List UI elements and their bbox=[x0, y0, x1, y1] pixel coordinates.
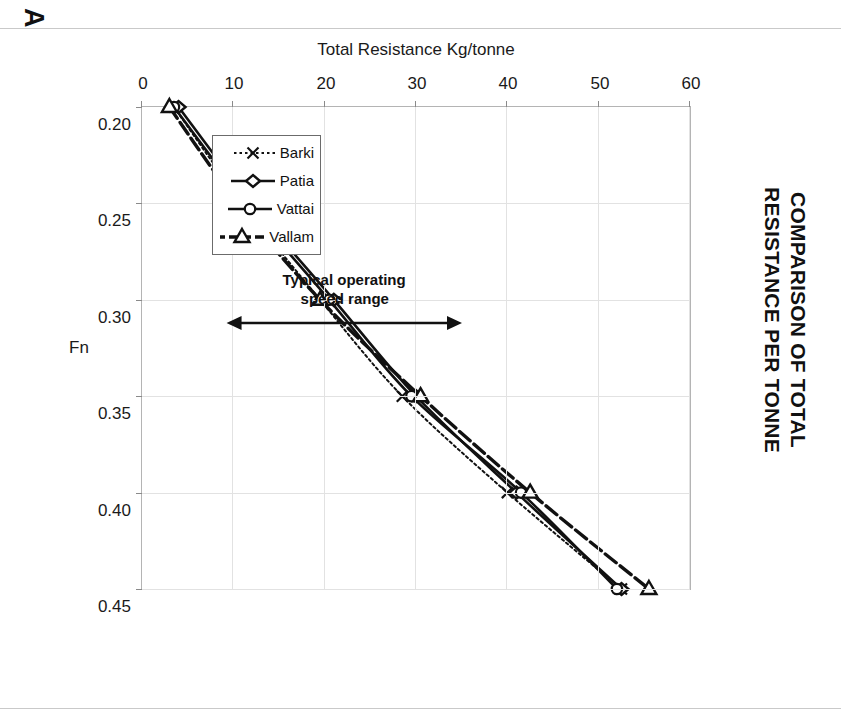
operating-range-annotation: Typical operating speed range bbox=[225, 271, 462, 335]
x-tick-label: 0.30 bbox=[98, 308, 131, 328]
x-tick-label: 0.45 bbox=[98, 597, 131, 617]
y-tick bbox=[324, 101, 325, 107]
y-tick bbox=[689, 101, 690, 107]
chart-title-line2: RESISTANCE PER TONNE bbox=[760, 70, 786, 570]
x-gridline bbox=[142, 396, 690, 397]
legend: BarkiPatiaVattaiVallam bbox=[212, 135, 321, 255]
y-gridline bbox=[689, 107, 690, 589]
chart-stage: A COMPARISON OF TOTAL RESISTANCE PER TON… bbox=[0, 0, 841, 727]
y-tick-label: 30 bbox=[408, 74, 427, 94]
x-tick bbox=[136, 589, 142, 590]
y-tick-label: 40 bbox=[499, 74, 518, 94]
panel-letter: A bbox=[18, 8, 49, 28]
legend-item-vallam[interactable]: Vallam bbox=[219, 228, 314, 246]
legend-label: Vallam bbox=[269, 229, 314, 244]
y-gridline bbox=[415, 107, 416, 589]
legend-label: Patia bbox=[280, 173, 314, 188]
x-axis-title: Fn bbox=[69, 338, 89, 358]
y-tick bbox=[415, 101, 416, 107]
x-tick-label: 0.20 bbox=[98, 115, 131, 135]
circle-marker bbox=[245, 204, 255, 214]
y-tick bbox=[232, 101, 233, 107]
legend-label: Vattai bbox=[277, 201, 314, 216]
legend-item-patia[interactable]: Patia bbox=[219, 172, 314, 190]
y-tick-label: 20 bbox=[316, 74, 335, 94]
chart-title: COMPARISON OF TOTAL RESISTANCE PER TONNE bbox=[760, 70, 811, 570]
x-tick-label: 0.40 bbox=[98, 501, 131, 521]
chart-title-line1: COMPARISON OF TOTAL bbox=[785, 70, 811, 570]
x-tick bbox=[136, 396, 142, 397]
y-tick-label: 60 bbox=[682, 74, 701, 94]
y-tick bbox=[598, 101, 599, 107]
legend-swatch-circle-marker bbox=[227, 200, 273, 218]
legend-item-barki[interactable]: Barki bbox=[219, 144, 314, 162]
y-gridline bbox=[598, 107, 599, 589]
figure-page: A COMPARISON OF TOTAL RESISTANCE PER TON… bbox=[0, 0, 841, 727]
x-tick-label: 0.25 bbox=[98, 211, 131, 231]
y-tick-label: 10 bbox=[225, 74, 244, 94]
legend-swatch-x-marker bbox=[230, 144, 276, 162]
y-gridline bbox=[506, 107, 507, 589]
x-gridline bbox=[142, 589, 690, 590]
y-tick bbox=[506, 101, 507, 107]
x-tick bbox=[136, 300, 142, 301]
x-tick bbox=[136, 107, 142, 108]
annotation-label: Typical operating speed range bbox=[225, 271, 462, 309]
y-tick-label: 50 bbox=[590, 74, 609, 94]
y-tick bbox=[141, 101, 142, 107]
legend-item-vattai[interactable]: Vattai bbox=[219, 200, 314, 218]
x-tick-label: 0.35 bbox=[98, 404, 131, 424]
y-gridline bbox=[324, 107, 325, 589]
y-tick-label: 0 bbox=[138, 74, 147, 94]
y-axis-title: Total Resistance Kg/tonne bbox=[317, 40, 515, 60]
legend-swatch-diamond-marker bbox=[230, 172, 276, 190]
legend-swatch-triangle-marker bbox=[219, 228, 265, 246]
x-tick bbox=[136, 203, 142, 204]
double-headed-arrow-icon bbox=[225, 312, 462, 334]
diamond-marker bbox=[246, 175, 260, 187]
x-gridline bbox=[142, 493, 690, 494]
x-tick bbox=[136, 493, 142, 494]
legend-label: Barki bbox=[280, 145, 314, 160]
